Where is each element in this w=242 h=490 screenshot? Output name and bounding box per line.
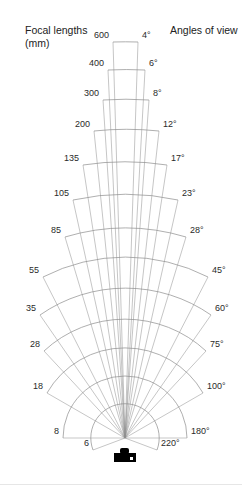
- arc-55mm: [43, 257, 208, 277]
- ray-right-28: [125, 351, 206, 438]
- arc-135mm: [83, 162, 167, 165]
- focal-label-600: 600: [94, 30, 109, 40]
- angle-label-135: 17°: [171, 153, 185, 163]
- focal-label-35: 35: [26, 303, 36, 313]
- angle-label-105: 23°: [182, 188, 196, 198]
- arc-8mm: [63, 376, 187, 438]
- angle-label-6: 220°: [161, 438, 180, 448]
- focal-label-85: 85: [51, 225, 61, 235]
- angle-label-600: 4°: [142, 30, 151, 40]
- angle-label-55: 45°: [212, 265, 226, 275]
- angle-label-28: 75°: [210, 339, 224, 349]
- angle-label-200: 12°: [163, 119, 177, 129]
- focal-label-8: 8: [54, 426, 59, 436]
- arc-85mm: [65, 228, 186, 237]
- angle-label-400: 6°: [149, 58, 158, 68]
- focal-label-300: 300: [84, 88, 99, 98]
- focal-label-200: 200: [75, 119, 90, 129]
- angle-label-300: 8°: [153, 88, 162, 98]
- arc-300mm: [103, 99, 149, 100]
- angle-label-35: 60°: [215, 303, 229, 313]
- ray-left-6: [93, 438, 125, 450]
- angle-label-18: 100°: [207, 381, 226, 391]
- arc-35mm: [40, 288, 211, 315]
- angle-label-85: 28°: [190, 225, 204, 235]
- focal-label-18: 18: [33, 381, 43, 391]
- arc-18mm: [47, 348, 203, 393]
- ray-left-28: [44, 351, 125, 438]
- focal-label-400: 400: [89, 58, 104, 68]
- focal-label-6: 6: [84, 438, 89, 448]
- arc-6mm: [91, 404, 159, 450]
- bottom-divider: [0, 484, 242, 485]
- focal-label-135: 135: [64, 153, 79, 163]
- ray-right-35: [125, 315, 211, 438]
- arc-200mm: [94, 129, 159, 131]
- focal-label-105: 105: [54, 188, 69, 198]
- ray-right-105: [125, 200, 178, 438]
- diagram-labels: 6004°4006°3008°20012°13517°10523°8528°55…: [26, 30, 229, 448]
- focal-length-arcs: [40, 42, 211, 450]
- focal-length-angle-diagram: 6004°4006°3008°20012°13517°10523°8528°55…: [0, 0, 242, 490]
- ray-left-35: [40, 315, 125, 438]
- ray-right-300: [125, 100, 149, 438]
- ray-right-6: [125, 438, 157, 450]
- arc-28mm: [44, 319, 206, 351]
- camera-icon: [114, 448, 136, 462]
- focal-label-28: 28: [30, 339, 40, 349]
- angle-label-8: 180°: [191, 426, 210, 436]
- focal-label-55: 55: [29, 265, 39, 275]
- view-angle-rays: [40, 42, 211, 450]
